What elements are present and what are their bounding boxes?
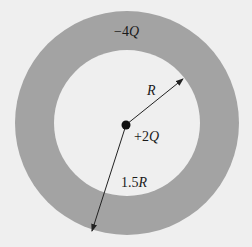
inner-radius-label: R [146,83,156,98]
charge-shell-diagram: −4Q R +2Q 1.5R [0,0,252,247]
point-charge-dot [122,121,131,130]
shell-charge-label: −4Q [114,24,139,39]
point-charge-label: +2Q [134,129,159,144]
outer-radius-label: 1.5R [121,175,148,190]
